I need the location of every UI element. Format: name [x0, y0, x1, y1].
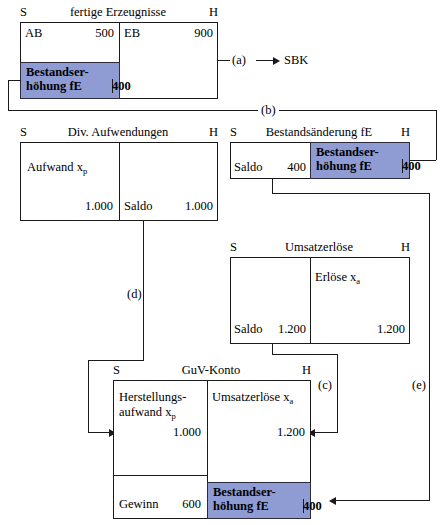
connector-d-seg-down-1	[143, 221, 144, 360]
row-amount: 900	[194, 26, 213, 41]
row-amount: 600	[182, 497, 201, 512]
connector-a-target-sbk: SBK	[284, 54, 308, 67]
account-title: fertige Erzeugnisse	[27, 6, 209, 19]
connector-d-seg-down-2	[88, 360, 89, 432]
highlight-bestandserhoehung-fe-3: Bestandser- höhung fE 400	[207, 482, 311, 519]
debit-marker: S	[113, 364, 120, 377]
connector-b-seg-left	[8, 80, 21, 81]
row-label-line2: aufwand xp	[119, 405, 176, 421]
row-label: Saldo	[234, 322, 262, 337]
connector-c-seg-down-1	[272, 344, 273, 354]
account-title: Umsatzerlöse	[237, 241, 401, 254]
account-title: Bestandsänderung fE	[237, 126, 401, 139]
connector-b-seg-down-left	[8, 80, 9, 110]
connector-b-seg-main	[8, 110, 437, 111]
connector-c-seg-into-account	[311, 432, 338, 433]
row-amount: 1.000	[185, 199, 213, 214]
account-header-fertige-erzeugnisse: S fertige Erzeugnisse H	[20, 6, 218, 19]
connector-e-seg-into-account	[332, 500, 430, 501]
highlight-line1: Bestandser-	[316, 145, 379, 159]
row-amount: 500	[95, 26, 114, 41]
debit-marker: S	[230, 126, 237, 139]
credit-marker: H	[209, 126, 218, 139]
account-row-erloese-amount: 1.200	[315, 322, 405, 337]
account-row-ab: AB 500	[25, 26, 114, 41]
account-result-divider	[113, 475, 207, 476]
account-row-saldo-debit: Saldo 400	[234, 160, 306, 175]
connector-a-stub	[218, 60, 230, 61]
subscript: p	[171, 411, 175, 421]
account-row-aufwand-amount: 1.000	[27, 199, 113, 214]
account-center-divider	[310, 257, 311, 344]
account-header-div-aufwendungen: S Div. Aufwendungen H	[20, 126, 218, 139]
row-label: Gewinn	[119, 497, 159, 512]
subscript: a	[289, 396, 293, 406]
highlight-amount: 400	[112, 79, 113, 93]
row-label: Saldo	[234, 160, 262, 175]
connector-a-label: (a)	[232, 54, 246, 67]
account-center-divider	[119, 142, 120, 221]
row-label: Saldo	[124, 199, 152, 214]
connector-e-seg-down-1	[272, 179, 273, 193]
connector-a-arrow-line	[256, 60, 274, 61]
account-row-gewinn: Gewinn 600	[119, 497, 201, 512]
row-amount: 1.200	[377, 322, 405, 337]
highlight-line1: Bestandser-	[26, 65, 89, 79]
highlight-amount: 400	[402, 159, 403, 173]
debit-marker: S	[20, 6, 27, 19]
subscript: a	[356, 276, 360, 286]
connector-e-label: (e)	[412, 379, 426, 392]
account-row-eb: EB 900	[124, 26, 213, 41]
row-label: EB	[124, 26, 140, 41]
row-label: Umsatzerlöse xa	[212, 390, 293, 406]
row-label-line1: Herstellungs-	[119, 390, 186, 405]
connector-a-arrowhead-icon	[273, 57, 280, 65]
account-row-herstellungsaufwand-amount: 1.000	[119, 425, 201, 440]
account-row-erloese: Erlöse xa	[315, 270, 405, 285]
row-amount: 1.200	[278, 322, 306, 337]
debit-marker: S	[230, 241, 237, 254]
account-row-aufwand-label: Aufwand xp	[27, 160, 113, 175]
row-label: Erlöse xa	[315, 270, 360, 286]
row-amount: 1.200	[277, 425, 305, 440]
account-header-guv-konto: S GuV-Konto H	[113, 364, 311, 377]
highlight-amount: 400	[303, 499, 304, 513]
account-header-bestandsaenderung-fe: S Bestandsänderung fE H	[230, 126, 410, 139]
debit-marker: S	[20, 126, 27, 139]
connector-c-label: (c)	[318, 379, 332, 392]
t-account-flow-diagram: S fertige Erzeugnisse H AB 500 EB 900 Be…	[0, 0, 444, 525]
connector-c-seg-down-2	[337, 354, 338, 432]
highlight-line1: Bestandser-	[213, 485, 276, 499]
highlight-line2: höhung fE	[213, 499, 269, 513]
credit-marker: H	[401, 126, 410, 139]
highlight-line2: höhung fE	[26, 79, 82, 93]
connector-d-seg-left	[88, 360, 144, 361]
connector-e-arrowhead-icon	[329, 497, 336, 505]
connector-b-seg-down-right	[436, 110, 437, 160]
account-row-saldo-credit: Saldo 1.000	[124, 199, 213, 214]
account-row-herstellungsaufwand: Herstellungs- aufwand xp	[119, 390, 201, 422]
highlight-bestandserhoehung-fe-2: Bestandser- höhung fE 400	[310, 142, 410, 179]
account-title: GuV-Konto	[120, 364, 302, 377]
row-amount: 1.000	[173, 425, 201, 440]
connector-d-label: (d)	[127, 288, 142, 301]
row-amount: 400	[287, 160, 306, 175]
connector-e-seg-down-2	[429, 193, 430, 500]
account-header-umsatzerloese: S Umsatzerlöse H	[230, 241, 410, 254]
account-title: Div. Aufwendungen	[27, 126, 209, 139]
row-label: Aufwand xp	[27, 160, 87, 176]
credit-marker: H	[401, 241, 410, 254]
account-row-saldo-umsatz: Saldo 1.200	[234, 322, 306, 337]
credit-marker: H	[209, 6, 218, 19]
row-amount: 1.000	[85, 199, 113, 214]
credit-marker: H	[302, 364, 311, 377]
subscript: p	[83, 166, 87, 176]
row-label: AB	[25, 26, 42, 41]
account-row-umsatzerloese-guv: Umsatzerlöse xa	[212, 390, 305, 405]
account-row-umsatzerloese-guv-amount: 1.200	[212, 425, 305, 440]
highlight-line2: höhung fE	[316, 159, 372, 173]
connector-e-seg-right	[272, 193, 430, 194]
connector-b-label: (b)	[258, 104, 279, 117]
connector-c-seg-right	[272, 354, 338, 355]
highlight-bestandserhoehung-fe-1: Bestandser- höhung fE 400	[20, 62, 120, 99]
